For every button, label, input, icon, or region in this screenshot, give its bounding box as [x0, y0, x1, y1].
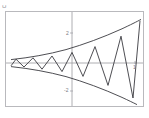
oscillation-group [11, 21, 140, 98]
oscillation-curve [11, 21, 140, 98]
axes-group [6, 12, 143, 106]
figure-container: ␣ 2 -2 1 [0, 0, 149, 118]
x-axis-tick-label-1: 1 [133, 64, 136, 70]
lower-envelope-curve [11, 67, 137, 105]
plot-canvas [0, 0, 149, 118]
y-axis-tick-label-2: 2 [66, 30, 69, 36]
y-axis-tick-label-neg2: -2 [64, 87, 68, 93]
